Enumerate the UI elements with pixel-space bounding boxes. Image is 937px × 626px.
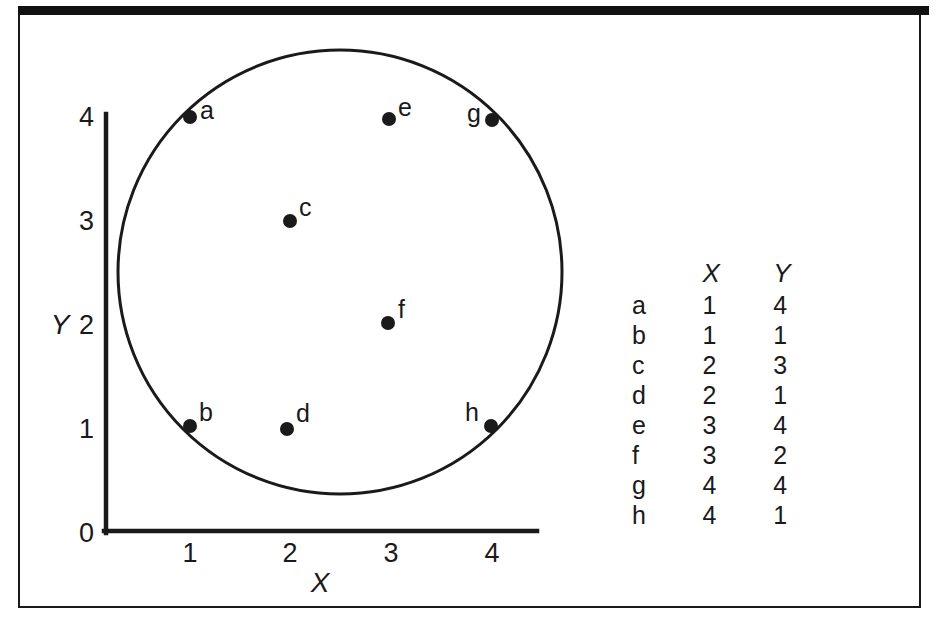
y-tick-label-3: 3 [79,206,94,236]
data-point-c[interactable] [283,214,297,228]
table-cell-key: d [628,380,703,410]
table-cell-y: 4 [773,290,843,320]
table-cell-key: c [628,350,703,380]
data-point-label-d: d [296,399,310,427]
table-cell-x: 1 [703,290,774,320]
table-cell-y: 1 [773,380,843,410]
table-header-y: Y [773,256,843,290]
y-tick-label-0: 0 [79,518,94,548]
y-axis-title: Y [51,309,72,340]
table-row: e34 [628,410,843,440]
table-row: h41 [628,500,843,530]
data-point-label-f: f [398,295,405,323]
table-cell-key: f [628,440,703,470]
data-point-f[interactable] [381,316,395,330]
y-tick-label-2: 2 [79,310,94,340]
y-tick-label-4: 4 [79,102,94,132]
table-cell-key: g [628,470,703,500]
table-cell-x: 3 [703,410,774,440]
x-tick-label-2: 2 [282,538,297,568]
table-cell-y: 4 [773,470,843,500]
data-point-label-a: a [200,96,214,124]
data-point-label-e: e [398,93,412,121]
table-cell-y: 2 [773,440,843,470]
table-row: f32 [628,440,843,470]
figure-page: 4 3 2 1 0 1 2 3 4 X Y a b c d e f g h [0,0,937,626]
x-tick-label-1: 1 [182,538,197,568]
table-cell-key: e [628,410,703,440]
table-cell-y: 3 [773,350,843,380]
y-tick-label-1: 1 [79,414,94,444]
table-body: a14b11c23d21e34f32g44h41 [628,290,843,530]
table-cell-x: 4 [703,500,774,530]
data-point-d[interactable] [280,422,294,436]
table-header-key [628,256,703,290]
x-tick-label-3: 3 [383,538,398,568]
data-point-g[interactable] [485,113,499,127]
table-cell-y: 1 [773,320,843,350]
table-cell-y: 1 [773,500,843,530]
data-point-h[interactable] [484,419,498,433]
table-header-x: X [703,256,774,290]
table-row: c23 [628,350,843,380]
data-point-a[interactable] [183,110,197,124]
data-point-b[interactable] [183,419,197,433]
table-row: d21 [628,380,843,410]
table-row: a14 [628,290,843,320]
table-cell-key: a [628,290,703,320]
table-row: b11 [628,320,843,350]
coordinates-table: X Y a14b11c23d21e34f32g44h41 [628,256,843,530]
data-point-label-c: c [299,193,312,221]
table-cell-key: h [628,500,703,530]
table-cell-x: 2 [703,380,774,410]
table-cell-x: 2 [703,350,774,380]
table-cell-y: 4 [773,410,843,440]
data-point-label-h: h [465,398,479,426]
table-cell-x: 3 [703,440,774,470]
x-axis-title: X [310,567,331,598]
table-header-row: X Y [628,256,843,290]
table-cell-x: 1 [703,320,774,350]
data-point-label-b: b [199,398,213,426]
data-point-e[interactable] [382,112,396,126]
table-cell-key: b [628,320,703,350]
data-point-label-g: g [467,99,481,127]
table-cell-x: 4 [703,470,774,500]
table-row: g44 [628,470,843,500]
x-tick-label-4: 4 [484,538,499,568]
